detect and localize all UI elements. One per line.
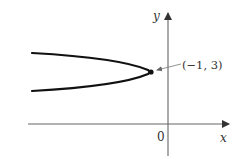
vertex-point: [148, 69, 153, 74]
vertex-pointer-arrow: [157, 64, 181, 70]
parabola-curve: [32, 53, 150, 91]
diagram-svg: y 0 x (−1, 3): [0, 0, 240, 163]
x-axis-label: x: [220, 131, 227, 145]
parabola-diagram: y 0 x (−1, 3): [0, 0, 240, 163]
y-axis-label: y: [152, 9, 160, 23]
vertex-label: (−1, 3): [182, 58, 223, 72]
origin-label: 0: [157, 130, 165, 144]
